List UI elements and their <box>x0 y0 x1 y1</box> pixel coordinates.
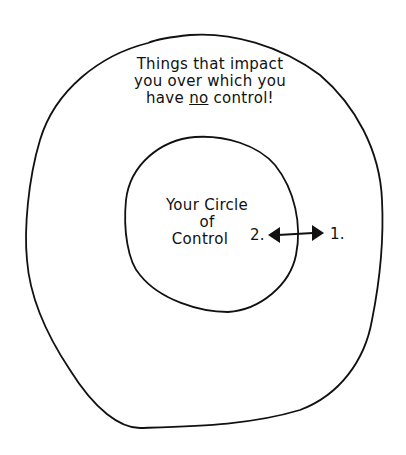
inner-label-line-1: Your Circle <box>152 197 262 214</box>
arrow-label-2: 2. <box>250 227 265 244</box>
outer-label-line-2: you over which you <box>130 73 290 90</box>
inner-label-line-2: of <box>152 214 262 231</box>
line3-post: control! <box>208 89 273 107</box>
line3-pre: have <box>146 89 189 107</box>
double-arrow <box>268 225 324 243</box>
outer-label-line-3: have no control! <box>130 90 290 107</box>
outer-label-line-1: Things that impact <box>130 56 290 73</box>
emphasis-no: no <box>189 89 208 107</box>
inner-label-line-3: Control <box>138 231 262 248</box>
arrow-label-1: 1. <box>330 226 345 243</box>
inner-circle-label: Your Circle of Control <box>152 197 262 248</box>
outer-circle-label: Things that impact you over which you ha… <box>130 56 290 107</box>
